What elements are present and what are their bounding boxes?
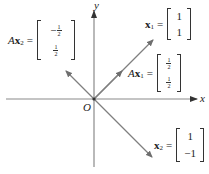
label-x1-sub: 1 [151,24,155,31]
label-Ax2: A x 2 = − 1 2 1 2 [8,20,75,60]
vector-x2 [94,99,152,157]
matrix-x1-entry-2: 1 [176,27,182,38]
fraction: 1 2 [57,24,62,37]
label-x2: x 2 = 1 −1 [154,128,204,162]
matrix-x1: 1 1 [167,8,191,40]
denominator: 2 [57,31,62,37]
fraction: 1 2 [166,57,171,70]
label-x2-sub: 2 [160,145,164,152]
matrix-Ax1-entry-1: 1 2 [166,57,171,70]
matrix-x1-entry-1: 1 [176,11,182,22]
y-axis-label: y [94,0,99,11]
label-Ax2-equals: = [27,35,33,46]
label-x1-equals: = [157,19,163,30]
numerator: 1 [166,76,171,83]
denominator: 2 [166,83,171,89]
fraction: 1 2 [53,44,58,57]
numerator: 1 [53,44,58,51]
label-Ax2-sub: 2 [20,40,24,47]
label-Ax1: A x 1 = 1 2 1 2 [128,54,181,92]
numerator: 1 [166,57,171,64]
label-Ax1-sub: 1 [140,73,144,80]
matrix-Ax2-entry-1: − 1 2 [50,24,61,37]
origin-point [92,97,95,100]
matrix-x2-entry-2: −1 [184,148,196,159]
label-x1: x 1 = 1 1 [145,8,191,40]
matrix-x2-entry-1: 1 [187,131,193,142]
matrix-x2: 1 −1 [176,128,204,162]
matrix-Ax2: − 1 2 1 2 [37,20,75,60]
matrix-Ax1-entry-2: 1 2 [166,76,171,89]
origin-label: O [83,101,91,113]
vector-Ax2 [66,71,94,99]
numerator: 1 [57,24,62,31]
label-Ax2-prefix: A [8,35,15,46]
matrix-Ax2-entry-2: 1 2 [53,44,58,57]
fraction: 1 2 [166,76,171,89]
label-x2-equals: = [166,140,172,151]
label-Ax1-equals: = [147,68,153,79]
matrix-Ax1: 1 2 1 2 [157,54,181,92]
denominator: 2 [53,51,58,57]
label-Ax1-prefix: A [128,68,135,79]
vector-Ax1 [94,71,122,99]
denominator: 2 [166,64,171,70]
x-axis-label: x [200,92,205,104]
